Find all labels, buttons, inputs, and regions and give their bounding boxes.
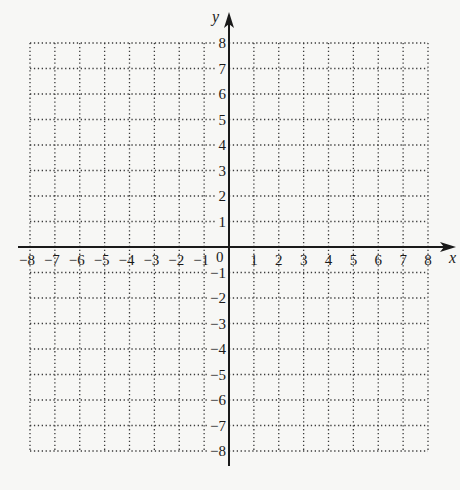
- x-tick-label: −2: [168, 252, 184, 268]
- y-tick-label: 4: [219, 137, 227, 153]
- x-tick-label: −6: [69, 252, 85, 268]
- coordinate-grid-figure: −8−7−6−5−4−3−2−11234567887654321−1−2−3−4…: [0, 0, 460, 490]
- coordinate-plane: −8−7−6−5−4−3−2−11234567887654321−1−2−3−4…: [0, 0, 460, 490]
- y-tick-label: 2: [219, 188, 227, 204]
- origin-label: 0: [216, 249, 224, 265]
- x-tick-label: −5: [94, 252, 110, 268]
- y-tick-label: −1: [210, 265, 226, 281]
- x-tick-label: −7: [44, 252, 60, 268]
- y-tick-label: −4: [210, 341, 226, 357]
- x-tick-label: 6: [375, 252, 383, 268]
- y-tick-label: −3: [210, 316, 226, 332]
- x-tick-label: 7: [399, 252, 407, 268]
- x-tick-label: 4: [325, 252, 333, 268]
- y-tick-label: 8: [219, 35, 227, 51]
- y-tick-label: −2: [210, 290, 226, 306]
- y-tick-label: 1: [219, 214, 227, 230]
- y-tick-label: −5: [210, 367, 226, 383]
- x-tick-label: 2: [275, 252, 283, 268]
- x-tick-label: 5: [350, 252, 358, 268]
- x-tick-label: −3: [143, 252, 159, 268]
- x-axis-label: x: [448, 249, 456, 266]
- x-tick-label: 3: [300, 252, 308, 268]
- y-tick-label: 7: [219, 61, 227, 77]
- x-tick-label: 8: [424, 252, 432, 268]
- y-axis-label: y: [210, 8, 220, 26]
- x-tick-label: −1: [193, 252, 209, 268]
- x-tick-label: −8: [19, 252, 35, 268]
- y-tick-label: −6: [210, 392, 226, 408]
- y-tick-label: 3: [219, 163, 227, 179]
- x-tick-label: 1: [250, 252, 258, 268]
- x-tick-label: −4: [119, 252, 135, 268]
- y-tick-label: 5: [219, 112, 227, 128]
- y-tick-label: −8: [210, 443, 226, 459]
- y-tick-label: 6: [219, 86, 227, 102]
- y-tick-label: −7: [210, 418, 226, 434]
- axes: [18, 12, 456, 466]
